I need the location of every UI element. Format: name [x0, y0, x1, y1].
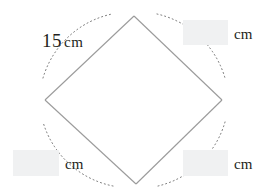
unit-label-top-right: cm	[234, 27, 252, 42]
unit-label-bottom-left: cm	[65, 157, 83, 172]
answer-input-top-right[interactable]	[183, 20, 228, 45]
side-length-value-top-left: 15	[42, 30, 62, 51]
figure-container: 15cm cm cm cm	[0, 0, 274, 192]
unit-label-bottom-right: cm	[234, 157, 252, 172]
rhombus-side-top-left	[45, 16, 134, 100]
side-length-unit-top-left: cm	[64, 34, 83, 50]
answer-input-bottom-left[interactable]	[13, 150, 59, 176]
side-length-label-top-left: 15cm	[42, 31, 83, 50]
answer-input-bottom-right[interactable]	[183, 150, 228, 176]
